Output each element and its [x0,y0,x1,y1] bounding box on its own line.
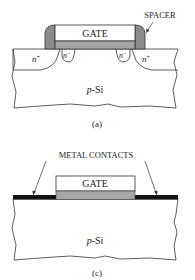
spacer-left [45,25,55,49]
diagram-a: GATE SPACER n+ n− n− n+ p-Si (a) [12,10,178,129]
spacer-right [135,25,145,49]
mosfet-process-figure: GATE SPACER n+ n− n− n+ p-Si (a) GATE ME… [0,0,195,280]
contacts-arrow-left [34,161,46,193]
metal-contact-right [135,195,178,200]
caption-c: (c) [92,268,102,278]
gate-label-a: GATE [82,28,108,39]
spacer-arrowhead-icon [146,29,150,34]
metal-contact-left [13,195,56,200]
contacts-arrowhead-right-icon [154,191,158,196]
gate-label-c: GATE [82,178,108,189]
substrate-c [12,199,178,260]
gate-oxide-c [56,191,135,200]
gate-oxide-a [55,41,135,49]
substrate-label-c: p-Si [86,235,104,246]
contacts-arrow-right [145,161,156,193]
metal-contacts-label: METAL CONTACTS [59,150,134,160]
diagram-c: GATE METAL CONTACTS p-Si (c) [12,150,178,278]
spacer-label: SPACER [144,10,176,20]
substrate-label-a: p-Si [86,84,104,95]
contacts-arrowhead-left-icon [33,191,37,196]
caption-a: (a) [92,119,102,129]
